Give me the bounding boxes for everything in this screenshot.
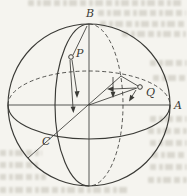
vector-arrow-q-left [107,86,136,91]
label-a: A [173,99,182,112]
label-b: B [85,7,94,20]
label-p: P [75,47,84,60]
point-marker-q [138,85,143,90]
label-q: Q [146,86,155,99]
sphere-figure: B A C P Q [0,0,187,196]
vector-arrow-p-short [72,60,80,98]
point-marker-p [69,55,74,60]
label-c: C [42,135,51,148]
book-page-scan: B A C P Q [0,0,187,196]
vector-arrow-q-down [129,90,136,102]
